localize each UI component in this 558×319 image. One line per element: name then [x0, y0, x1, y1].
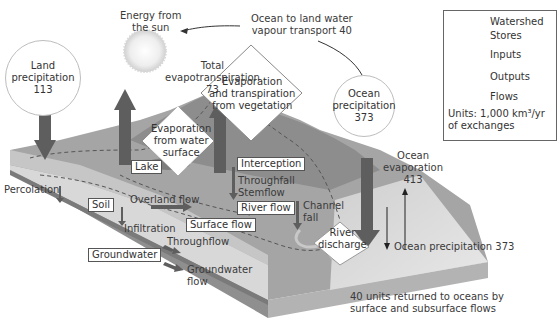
- store-soil: Soil: [88, 198, 114, 212]
- input-land-precipitation: Land precipitation 113: [5, 40, 81, 116]
- store-surface-flow: Surface flow: [186, 218, 256, 232]
- flow-channel-fall: Channel fall: [303, 200, 344, 224]
- legend-inputs: Inputs: [490, 49, 521, 61]
- store-lake: Lake: [131, 160, 162, 174]
- legend-stores: Stores: [490, 30, 522, 42]
- sun-icon: [124, 30, 166, 72]
- sun-label: Energy from the sun: [120, 10, 181, 34]
- output-water-surface-label: Evaporation from water surface: [151, 123, 211, 159]
- legend-outputs: Outputs: [490, 71, 530, 83]
- ocean-to-land-label: Ocean to land water vapour transport 40: [251, 13, 353, 37]
- ocean-precipitation-label: Ocean precipitation 373: [394, 241, 514, 253]
- flow-infiltration: Infiltration: [124, 223, 176, 235]
- legend-flows: Flows: [490, 91, 518, 103]
- output-river-discharge-label: River discharge: [318, 227, 367, 251]
- flow-overland: Overland flow: [130, 194, 199, 206]
- store-interception: Interception: [237, 157, 305, 171]
- input-ocean-precipitation: Ocean precipitation 373: [333, 75, 395, 137]
- legend-units: Units: 1,000 km³/yr of exchanges: [448, 108, 545, 132]
- store-groundwater: Groundwater: [88, 248, 161, 262]
- flow-percolation: Percolation: [4, 184, 59, 196]
- store-river-flow: River flow: [237, 201, 295, 215]
- flow-throughfall-stemflow: Throughfall Stemflow: [238, 175, 295, 199]
- vapour-transport-arrow: [182, 26, 240, 31]
- ocean-evaporation-label: Ocean evaporation 413: [383, 150, 443, 186]
- water-cycle-diagram: Energy from the sun Ocean to land water …: [0, 0, 558, 319]
- flow-groundwater: Groundwater flow: [187, 264, 252, 288]
- output-vegetation-label: Evaporation and transpiration from veget…: [209, 76, 295, 112]
- flow-throughflow: Throughflow: [167, 236, 229, 248]
- legend-watershed: Watershed: [490, 16, 544, 28]
- return-note: 40 units returned to oceans by surface a…: [350, 291, 504, 315]
